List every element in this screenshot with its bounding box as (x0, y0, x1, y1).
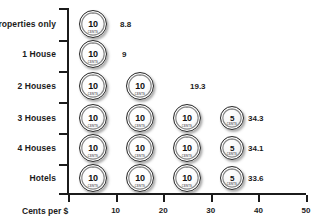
coin-arc-text: CENTS (127, 156, 153, 159)
coin-arc-text: CENTS (127, 94, 153, 97)
coin-arc-text: CENTS (174, 186, 200, 189)
coin-denomination: 10 (182, 174, 191, 183)
x-axis-title: Cents per $ (22, 206, 68, 216)
x-axis-tick-label-30: 30 (206, 206, 215, 215)
coin-notch-icon (231, 139, 234, 140)
y-axis-line (67, 8, 69, 194)
y-axis-tick-2 (59, 71, 67, 73)
coin-notch-icon (92, 13, 95, 14)
x-axis-tick-label-20: 20 (159, 206, 168, 215)
coin-icon-10-cent: 10CENTS (79, 104, 107, 132)
coin-arc-text: CENTS (80, 126, 106, 129)
coin-notch-icon (186, 137, 189, 138)
coin-notch-icon (92, 43, 95, 44)
x-axis-tick-30 (211, 195, 213, 202)
coin-notch-icon (92, 167, 95, 168)
coin-denomination: 10 (135, 114, 144, 123)
y-axis-tick-6 (59, 193, 67, 195)
coin-denomination: 10 (88, 50, 97, 59)
coin-icon-10-cent: 10CENTS (79, 164, 107, 192)
coin-notch-icon (231, 169, 234, 170)
coin-arc-text: CENTS (80, 62, 106, 65)
coin-icon-10-cent: 10CENTS (173, 134, 201, 162)
coin-denomination: 10 (182, 114, 191, 123)
coin-notch-icon (139, 107, 142, 108)
coin-notch-icon (139, 75, 142, 76)
coin-icon-10-cent: 10CENTS (126, 104, 154, 132)
coin-icon-5-cent: 5CENTS (220, 106, 244, 130)
x-axis-line (67, 193, 306, 195)
x-axis-tick-label-40: 40 (254, 206, 263, 215)
coin-arc-text: CENTS (221, 124, 243, 127)
coin-icon-10-cent: 10CENTS (126, 164, 154, 192)
coin-icon-10-cent: 10CENTS (79, 72, 107, 100)
coin-icon-10-cent: 10CENTS (173, 104, 201, 132)
coin-notch-icon (186, 107, 189, 108)
coin-icon-10-cent: 10CENTS (79, 134, 107, 162)
y-axis-label-4: 4 Houses (17, 143, 56, 153)
coin-denomination: 5 (230, 145, 234, 153)
coin-arc-text: CENTS (221, 154, 243, 157)
coin-arc-text: CENTS (127, 126, 153, 129)
coin-notch-icon (186, 167, 189, 168)
coin-icon-10-cent: 10CENTS (173, 164, 201, 192)
coin-arc-text: CENTS (174, 126, 200, 129)
coin-notch-icon (139, 137, 142, 138)
coin-denomination: 10 (182, 144, 191, 153)
coin-icon-10-cent: 10CENTS (126, 134, 154, 162)
coin-denomination: 10 (88, 82, 97, 91)
x-axis-tick-origin (68, 195, 70, 202)
coin-denomination: 10 (88, 174, 97, 183)
coin-icon-10-cent: 10CENTS (79, 40, 107, 68)
value-label-5: 33.6 (248, 174, 264, 183)
x-axis-tick-label-10: 10 (111, 206, 120, 215)
coin-arc-text: CENTS (127, 186, 153, 189)
coin-notch-icon (92, 107, 95, 108)
y-axis-label-5: Hotels (29, 173, 56, 183)
coin-arc-text: CENTS (80, 156, 106, 159)
y-axis-tick-4 (59, 133, 67, 135)
coin-denomination: 10 (88, 114, 97, 123)
coin-arc-text: CENTS (80, 186, 106, 189)
coin-arc-text: CENTS (80, 94, 106, 97)
coin-arc-text: CENTS (221, 184, 243, 187)
y-axis-label-1: 1 House (22, 49, 56, 59)
y-axis-label-2: 2 Houses (17, 81, 56, 91)
coin-denomination: 10 (135, 82, 144, 91)
y-axis-tick-0 (59, 8, 67, 10)
value-label-4: 34.1 (248, 144, 264, 153)
coin-notch-icon (92, 75, 95, 76)
y-axis-tick-5 (59, 164, 67, 166)
x-axis-tick-40 (258, 195, 260, 202)
coin-arc-text: CENTS (174, 156, 200, 159)
coin-icon-10-cent: 10CENTS (79, 10, 107, 38)
y-axis-label-0: Properties only (0, 19, 56, 29)
coin-icon-5-cent: 5CENTS (220, 136, 244, 160)
value-label-3: 34.3 (248, 114, 264, 123)
coin-arc-text: CENTS (80, 32, 106, 35)
x-axis-tick-10 (116, 195, 118, 202)
coin-denomination: 10 (135, 144, 144, 153)
coin-denomination: 10 (88, 144, 97, 153)
pictogram-chart: Properties only1 House2 Houses3 Houses4 … (0, 0, 314, 223)
coin-denomination: 10 (135, 174, 144, 183)
coin-icon-5-cent: 5CENTS (220, 166, 244, 190)
x-axis-tick-label-50: 50 (302, 206, 311, 215)
value-label-1: 9 (122, 50, 126, 59)
coin-icon-10-cent: 10CENTS (126, 72, 154, 100)
value-label-0: 8.8 (120, 20, 131, 29)
coin-notch-icon (92, 137, 95, 138)
value-label-2: 19.3 (190, 82, 206, 91)
coin-notch-icon (139, 167, 142, 168)
coin-denomination: 5 (230, 175, 234, 183)
y-axis-label-3: 3 Houses (17, 113, 56, 123)
coin-notch-icon (231, 109, 234, 110)
coin-denomination: 10 (88, 20, 97, 29)
y-axis-tick-1 (59, 40, 67, 42)
x-axis-tick-50 (306, 195, 308, 202)
y-axis-tick-3 (59, 102, 67, 104)
x-axis-tick-20 (163, 195, 165, 202)
coin-denomination: 5 (230, 115, 234, 123)
